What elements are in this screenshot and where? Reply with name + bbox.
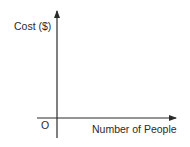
origin-label: O bbox=[41, 119, 49, 131]
y-axis-label: Cost ($) bbox=[14, 20, 51, 32]
cost-vs-people-chart: Cost ($) Number of People O bbox=[0, 0, 190, 147]
x-axis-label: Number of People bbox=[92, 123, 177, 135]
